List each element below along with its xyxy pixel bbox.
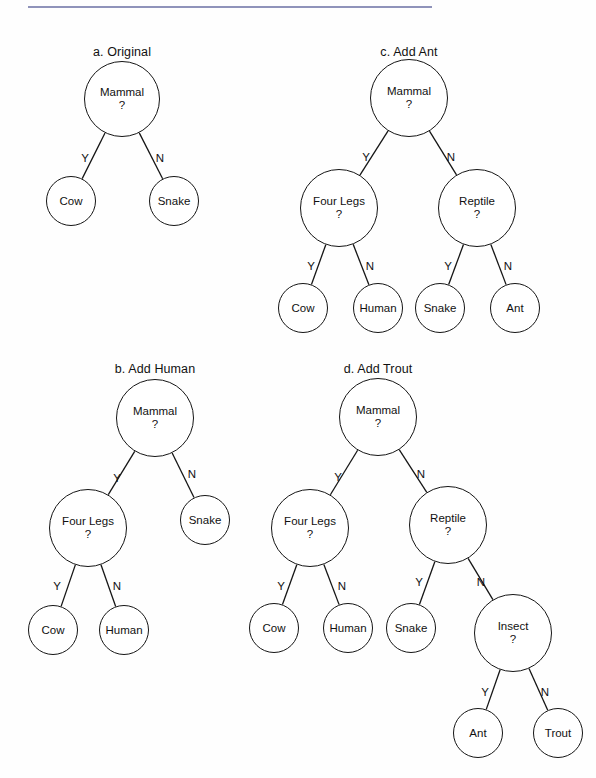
node-label: Mammal (356, 404, 400, 417)
node-label: Cow (59, 195, 82, 208)
tree-node-d-human[interactable]: Human (323, 603, 373, 653)
node-label: Ant (469, 727, 486, 740)
tree-node-d-ant[interactable]: Ant (453, 708, 503, 758)
tree-node-a-snake[interactable]: Snake (149, 176, 199, 226)
edge-label-yes: Y (444, 260, 452, 272)
edge-label-no: N (417, 468, 425, 480)
node-question-mark: ? (445, 525, 451, 538)
node-label: Trout (545, 727, 571, 740)
tree-node-b-cow[interactable]: Cow (28, 605, 78, 655)
node-question-mark: ? (85, 528, 91, 541)
node-question-mark: ? (510, 633, 516, 646)
edge-label-yes: Y (415, 576, 423, 588)
edge-label-yes: Y (113, 472, 121, 484)
panel-title-panel-c: c. Add Ant (380, 45, 437, 59)
tree-node-c-reptile[interactable]: Reptile? (438, 169, 516, 247)
decision-tree-figure: a. OriginalYNMammal?CowSnakec. Add AntYN… (0, 0, 596, 778)
edge-label-yes: Y (307, 260, 315, 272)
tree-node-c-mammal[interactable]: Mammal? (370, 59, 448, 137)
edge-label-yes: Y (334, 471, 342, 483)
edge-label-yes: Y (277, 580, 285, 592)
node-label: Human (329, 622, 366, 635)
node-label: Mammal (133, 405, 177, 418)
node-label: Snake (189, 514, 222, 527)
node-label: Cow (41, 624, 64, 637)
edge-label-no: N (541, 686, 549, 698)
tree-node-d-snake[interactable]: Snake (386, 603, 436, 653)
tree-node-c-fourlegs[interactable]: Four Legs? (300, 169, 378, 247)
node-label: Snake (158, 195, 191, 208)
node-label: Snake (395, 622, 428, 635)
edge-label-no: N (477, 576, 485, 588)
tree-node-b-fourlegs[interactable]: Four Legs? (49, 489, 127, 567)
node-label: Reptile (459, 195, 495, 208)
node-label: Four Legs (62, 515, 114, 528)
edge-label-no: N (113, 580, 121, 592)
node-question-mark: ? (307, 528, 313, 541)
tree-node-c-snake[interactable]: Snake (415, 283, 465, 333)
edge-label-no: N (338, 580, 346, 592)
node-label: Mammal (387, 85, 431, 98)
tree-node-d-mammal[interactable]: Mammal? (339, 378, 417, 456)
tree-node-d-cow[interactable]: Cow (249, 603, 299, 653)
edge-label-yes: Y (362, 151, 370, 163)
node-label: Cow (262, 622, 285, 635)
tree-node-a-mammal[interactable]: Mammal? (84, 61, 160, 137)
tree-node-d-fourlegs[interactable]: Four Legs? (271, 489, 349, 567)
tree-node-b-snake[interactable]: Snake (180, 495, 230, 545)
node-label: Ant (506, 302, 523, 315)
node-label: Four Legs (313, 195, 365, 208)
tree-edge (324, 564, 339, 604)
edge-label-yes: Y (81, 152, 89, 164)
tree-node-c-cow[interactable]: Cow (278, 283, 328, 333)
edge-label-yes: Y (53, 580, 61, 592)
panel-title-panel-a: a. Original (93, 45, 151, 59)
tree-node-a-cow[interactable]: Cow (46, 176, 96, 226)
node-label: Reptile (430, 512, 466, 525)
node-question-mark: ? (152, 418, 158, 431)
tree-node-d-insect[interactable]: Insect? (474, 594, 552, 672)
tree-node-d-reptile[interactable]: Reptile? (409, 486, 487, 564)
node-label: Insect (498, 620, 529, 633)
tree-node-b-mammal[interactable]: Mammal? (116, 379, 194, 457)
edge-label-no: N (156, 152, 164, 164)
node-question-mark: ? (406, 98, 412, 111)
tree-node-c-human[interactable]: Human (353, 283, 403, 333)
tree-node-c-ant[interactable]: Ant (490, 283, 540, 333)
node-label: Four Legs (284, 515, 336, 528)
edge-label-yes: Y (481, 686, 489, 698)
tree-edge (61, 565, 75, 606)
node-label: Human (359, 302, 396, 315)
panel-title-panel-d: d. Add Trout (344, 362, 413, 376)
node-label: Cow (291, 302, 314, 315)
node-question-mark: ? (474, 208, 480, 221)
edge-label-no: N (366, 260, 374, 272)
node-label: Human (105, 624, 142, 637)
edge-label-no: N (188, 468, 196, 480)
tree-node-d-trout[interactable]: Trout (533, 708, 583, 758)
node-question-mark: ? (119, 99, 125, 112)
node-question-mark: ? (336, 208, 342, 221)
edge-label-no: N (447, 151, 455, 163)
node-label: Mammal (100, 86, 144, 99)
panel-title-panel-b: b. Add Human (115, 362, 195, 376)
tree-node-b-human[interactable]: Human (99, 605, 149, 655)
edge-label-no: N (504, 260, 512, 272)
node-label: Snake (424, 302, 457, 315)
top-horizontal-rule (28, 6, 432, 8)
node-question-mark: ? (375, 417, 381, 430)
